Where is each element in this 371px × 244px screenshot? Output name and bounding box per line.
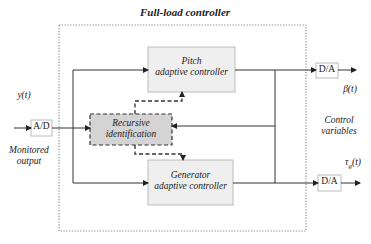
da-top-label: D/A bbox=[316, 64, 338, 74]
generator-output-signal: τg(t) bbox=[341, 157, 365, 170]
pitch-line1: Pitch bbox=[148, 56, 235, 67]
control-line2: variables bbox=[314, 126, 364, 137]
monitored-line2: output bbox=[4, 156, 54, 167]
generator-line2: adaptive controller bbox=[148, 181, 233, 192]
monitored-line1: Monitored bbox=[4, 145, 54, 156]
da-bottom-label: D/A bbox=[318, 176, 341, 186]
recursive-line2: identification bbox=[90, 129, 172, 140]
control-variables-label: Control variables bbox=[314, 115, 364, 137]
pitch-line2: adaptive controller bbox=[148, 67, 235, 78]
diagram-title: Full-load controller bbox=[110, 6, 260, 19]
recursive-line1: Recursive bbox=[90, 118, 172, 129]
control-line1: Control bbox=[314, 115, 364, 126]
input-signal-label: y(t) bbox=[12, 90, 36, 101]
monitored-output-label: Monitored output bbox=[4, 145, 54, 167]
ad-label: A/D bbox=[31, 121, 52, 131]
generator-line1: Generator bbox=[148, 170, 233, 181]
pitch-controller-label: Pitch adaptive controller bbox=[148, 56, 235, 78]
pitch-output-signal: β(t) bbox=[338, 84, 362, 95]
tau-arg: (t) bbox=[352, 157, 361, 167]
recursive-identification-label: Recursive identification bbox=[90, 118, 172, 140]
generator-controller-label: Generator adaptive controller bbox=[148, 170, 233, 192]
